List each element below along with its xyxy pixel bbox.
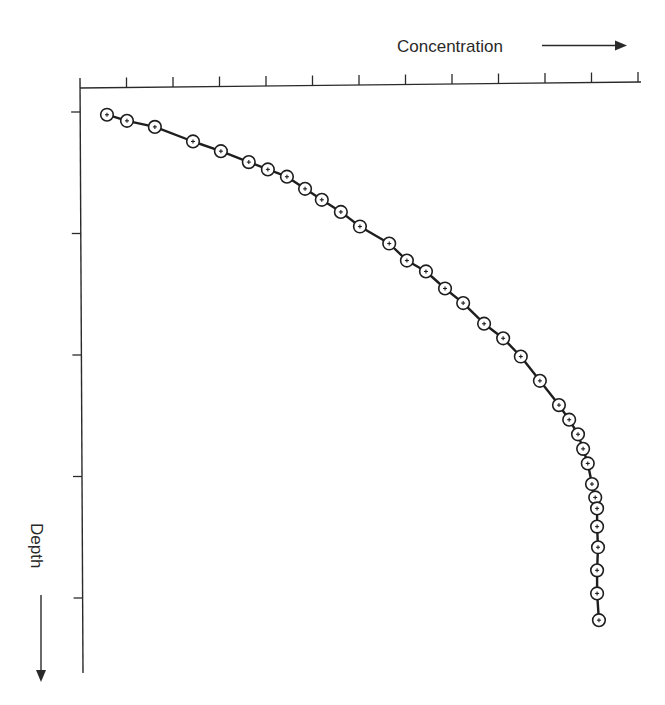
y-axis: [80, 78, 83, 673]
data-point-marker: [215, 145, 228, 158]
x-axis-label: Concentration: [397, 37, 503, 56]
data-point-marker: [534, 375, 547, 388]
data-point-marker: [581, 457, 594, 470]
data-point-marker: [316, 193, 329, 206]
data-point-marker: [401, 254, 414, 267]
y-axis-label-group: Depth: [27, 523, 46, 682]
data-point-marker: [593, 614, 606, 627]
data-point-marker: [121, 115, 134, 128]
data-point-marker: [383, 237, 396, 250]
data-point-marker: [262, 163, 275, 176]
data-point-marker: [242, 156, 255, 169]
data-point-marker: [553, 399, 566, 412]
data-point-marker: [281, 170, 294, 183]
x-axis-label-group: Concentration: [397, 37, 627, 56]
y-axis-label: Depth: [27, 523, 46, 568]
x-axis: [80, 82, 641, 88]
data-point-marker: [592, 541, 605, 554]
data-point-marker: [149, 121, 162, 134]
data-point-marker: [439, 282, 452, 295]
y-direction-arrow-icon: [36, 595, 46, 682]
data-point-marker: [572, 428, 585, 441]
x-direction-arrow-icon: [542, 41, 627, 51]
data-point-marker: [101, 108, 114, 121]
data-point-marker: [591, 564, 604, 577]
data-point-marker: [457, 297, 470, 310]
data-point-marker: [478, 317, 491, 330]
data-point-marker: [591, 502, 604, 515]
data-point-marker: [591, 587, 604, 600]
data-point-marker: [299, 183, 312, 196]
data-point-marker: [586, 478, 599, 491]
data-point-marker: [497, 332, 510, 345]
axes: [71, 72, 641, 673]
data-point-marker: [515, 350, 528, 363]
data-point-marker: [563, 413, 576, 426]
data-point-marker: [420, 265, 433, 278]
data-point-marker: [354, 220, 367, 233]
data-line: [107, 115, 599, 621]
data-point-marker: [591, 520, 604, 533]
data-point-marker: [335, 206, 348, 219]
data-point-marker: [577, 443, 590, 456]
data-point-marker: [187, 135, 200, 148]
plot-area: [101, 108, 606, 626]
depth-concentration-chart: Concentration Depth: [0, 0, 665, 705]
